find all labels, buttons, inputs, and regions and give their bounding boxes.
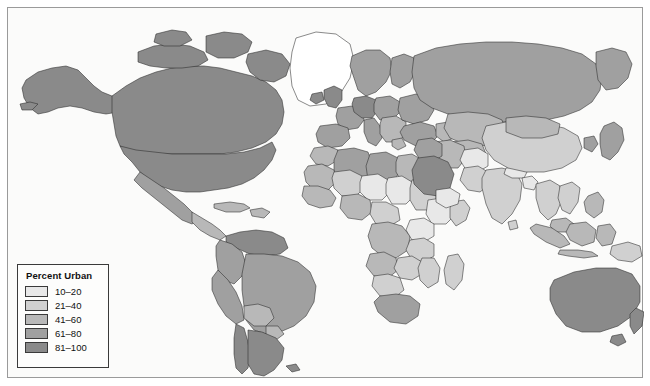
region-myanmar-thailand bbox=[536, 180, 562, 220]
legend-title: Percent Urban bbox=[26, 270, 102, 281]
region-canada-arctic-3 bbox=[154, 30, 192, 46]
region-russia bbox=[412, 42, 602, 122]
region-central-america bbox=[192, 212, 226, 240]
legend-item: 21–40 bbox=[25, 298, 102, 312]
region-madagascar bbox=[444, 254, 464, 290]
region-indonesia-java bbox=[558, 250, 598, 258]
legend-item: 41–60 bbox=[25, 312, 102, 326]
legend-label-21-40: 21–40 bbox=[55, 300, 81, 311]
legend-item: 10–20 bbox=[25, 284, 102, 298]
region-falklands bbox=[286, 364, 300, 372]
legend-swatch-61-80 bbox=[25, 328, 48, 339]
region-south-africa bbox=[374, 294, 420, 324]
region-mongolia bbox=[506, 116, 560, 138]
region-mozambique bbox=[418, 258, 440, 288]
legend-swatch-81-100 bbox=[25, 342, 48, 353]
region-united-kingdom bbox=[324, 86, 342, 108]
legend-swatch-10-20 bbox=[25, 286, 48, 297]
legend-item: 81–100 bbox=[25, 340, 102, 354]
region-alaska bbox=[22, 66, 126, 114]
region-dr-congo bbox=[368, 222, 410, 258]
region-chile bbox=[234, 324, 250, 374]
region-bangladesh bbox=[522, 176, 538, 190]
map-legend: Percent Urban 10–20 21–40 41–60 61–80 81… bbox=[17, 264, 109, 368]
legend-label-61-80: 61–80 bbox=[55, 328, 81, 339]
region-canada bbox=[112, 66, 284, 154]
region-italy bbox=[364, 118, 382, 146]
region-canada-arctic-2 bbox=[206, 32, 252, 58]
region-spain-portugal bbox=[316, 124, 350, 148]
region-west-africa-coast bbox=[302, 186, 336, 208]
legend-label-41-60: 41–60 bbox=[55, 314, 81, 325]
region-new-zealand bbox=[630, 308, 644, 334]
region-scandinavia bbox=[350, 50, 392, 96]
region-indonesia-sulawesi bbox=[596, 224, 616, 246]
region-sri-lanka bbox=[508, 220, 518, 230]
legend-label-81-100: 81–100 bbox=[55, 342, 87, 353]
figure-frame: Percent Urban 10–20 21–40 41–60 61–80 81… bbox=[7, 7, 643, 378]
legend-item: 61–80 bbox=[25, 326, 102, 340]
region-indonesia-borneo bbox=[566, 222, 596, 246]
legend-swatch-41-60 bbox=[25, 314, 48, 325]
region-vietnam bbox=[558, 182, 580, 214]
region-caribbean-hispaniola bbox=[250, 208, 270, 218]
region-tasmania bbox=[610, 334, 626, 346]
region-caribbean-cuba bbox=[214, 202, 250, 212]
region-australia bbox=[550, 268, 640, 332]
world-map-figure: Percent Urban 10–20 21–40 41–60 61–80 81… bbox=[0, 0, 650, 386]
region-japan bbox=[600, 122, 624, 160]
region-russia-far-east bbox=[596, 48, 632, 90]
region-papua-new-guinea bbox=[610, 242, 642, 262]
region-korea bbox=[584, 136, 598, 152]
region-canada-arctic-1 bbox=[138, 44, 208, 68]
region-philippines bbox=[584, 192, 604, 218]
legend-label-10-20: 10–20 bbox=[55, 286, 81, 297]
legend-swatch-21-40 bbox=[25, 300, 48, 311]
